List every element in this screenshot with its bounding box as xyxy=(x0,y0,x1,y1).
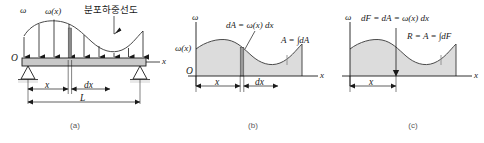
dim-L-label-a: L xyxy=(79,93,85,103)
panel-b: x dx ω ω(x) O x dA = ω(x) dx A = ∫dA (b) xyxy=(175,12,324,130)
dimension-dx-a: dx xyxy=(72,80,110,90)
load-curve-a xyxy=(24,21,143,52)
load-arrows-a xyxy=(24,20,143,58)
dimension-dx-b: dx xyxy=(244,77,278,87)
dimension-L-a: L xyxy=(28,93,140,103)
callout-arrowhead-a xyxy=(115,28,121,34)
dA-leader-b xyxy=(245,31,255,49)
dim-x-label-a: x xyxy=(44,80,50,90)
origin-label-b: O xyxy=(186,66,193,76)
distributed-load-diagram-label: 분포하중선도 xyxy=(84,4,138,15)
omega-label-a: ω xyxy=(20,5,26,15)
R-expression-c: R = A = ∫dF xyxy=(406,31,452,42)
dx-strip-a xyxy=(68,28,71,58)
omega-of-x-label-a: ω(x) xyxy=(45,6,61,16)
dimension-x-b: x xyxy=(196,77,240,87)
x-axis-label-b: x xyxy=(319,70,324,80)
dF-expression-c: dF = dA = ω(x) dx xyxy=(361,13,429,23)
witness-lines-b xyxy=(196,76,244,92)
panel-c: x ω x dF = dA = ω(x) dx R = A = ∫dF (c) xyxy=(342,12,478,130)
x-axis-label-c: x xyxy=(473,70,478,80)
omega-label-c: ω xyxy=(345,12,351,22)
dim-dx-label-b: dx xyxy=(255,77,265,87)
A-expression-b: A = ∫dA xyxy=(280,35,310,46)
panel-a: x dx L ω ω(x) O x 분포하중선도 (a) xyxy=(11,4,166,130)
distributed-load-figure: x dx L ω ω(x) O x 분포하중선도 (a) xyxy=(0,0,484,143)
x-axis-label-a: x xyxy=(161,56,166,66)
dA-expression-b: dA = ω(x) dx xyxy=(226,20,274,30)
origin-label-a: O xyxy=(11,53,18,63)
dim-dx-label-a: dx xyxy=(84,80,94,90)
omega-label-b: ω xyxy=(192,12,198,22)
dim-x-label-b: x xyxy=(214,77,220,87)
dA-strip-b xyxy=(240,48,244,77)
panel-caption-a: (a) xyxy=(70,121,80,130)
panel-caption-c: (c) xyxy=(408,121,418,130)
dimension-x-c: x xyxy=(350,77,396,87)
beam-a xyxy=(22,58,146,66)
area-fill-c xyxy=(350,39,456,76)
dim-x-label-c: x xyxy=(368,77,374,87)
omega-of-x-label-b: ω(x) xyxy=(175,43,191,53)
panel-caption-b: (b) xyxy=(248,121,258,130)
